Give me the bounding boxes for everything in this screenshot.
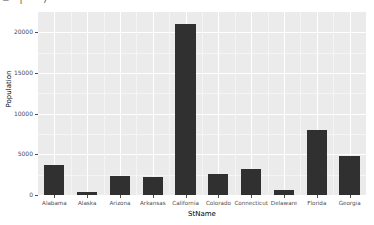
x-axis-title: StName <box>38 210 366 218</box>
y-axis-title: Population <box>5 59 13 119</box>
bar-california[interactable] <box>175 24 195 195</box>
x-tick-label-california: California <box>172 200 199 207</box>
gridline-minor-vertical <box>136 12 137 195</box>
x-tick-mark <box>218 195 219 198</box>
gridline-minor-vertical <box>202 12 203 195</box>
gridline-minor-vertical <box>71 12 72 195</box>
x-tick-label-alabama: Alabama <box>42 200 67 207</box>
x-tick-mark <box>153 195 154 198</box>
bar-alabama[interactable] <box>44 165 64 195</box>
y-tick-label: 20000 <box>0 29 33 35</box>
x-tick-mark <box>87 195 88 198</box>
x-tick-mark <box>251 195 252 198</box>
x-tick-mark <box>317 195 318 198</box>
gridline-minor-vertical <box>104 12 105 195</box>
gridline-major-vertical <box>218 12 219 195</box>
y-tick-mark <box>35 195 38 196</box>
gridline-major-vertical <box>251 12 252 195</box>
x-tick-label-delaware: Delaware <box>271 200 297 207</box>
bar-colorado[interactable] <box>208 174 228 195</box>
bar-connecticut[interactable] <box>241 169 261 195</box>
gridline-major-vertical <box>120 12 121 195</box>
x-tick-mark <box>350 195 351 198</box>
x-tick-label-colorado: Colorado <box>206 200 231 207</box>
truncated-text-fragment: =—| · ·· ) <box>2 0 47 4</box>
bar-florida[interactable] <box>307 130 327 195</box>
bar-chart-figure: 05000100001500020000 AlabamaAlaskaArizon… <box>0 7 374 225</box>
gridline-major-vertical <box>87 12 88 195</box>
x-tick-label-alaska: Alaska <box>78 200 96 207</box>
gridline-minor-vertical <box>300 12 301 195</box>
y-tick-label: 5000 <box>0 151 33 157</box>
y-tick-mark <box>35 154 38 155</box>
bar-arizona[interactable] <box>110 176 130 195</box>
bar-arkansas[interactable] <box>143 177 163 195</box>
bar-georgia[interactable] <box>339 156 359 195</box>
x-tick-mark <box>186 195 187 198</box>
y-tick-label: 0 <box>0 192 33 198</box>
y-tick-mark <box>35 114 38 115</box>
gridline-minor-vertical <box>169 12 170 195</box>
x-tick-mark <box>54 195 55 198</box>
gridline-major-vertical <box>153 12 154 195</box>
gridline-minor-vertical <box>333 12 334 195</box>
x-tick-label-arkansas: Arkansas <box>140 200 166 207</box>
y-tick-mark <box>35 32 38 33</box>
y-tick-mark <box>35 73 38 74</box>
x-tick-label-florida: Florida <box>307 200 326 207</box>
plot-panel <box>38 12 366 195</box>
x-tick-mark <box>284 195 285 198</box>
x-tick-label-connecticut: Connecticut <box>234 200 268 207</box>
gridline-minor-vertical <box>268 12 269 195</box>
x-tick-label-georgia: Georgia <box>339 200 361 207</box>
gridline-minor-vertical <box>235 12 236 195</box>
gridline-major-vertical <box>284 12 285 195</box>
x-tick-mark <box>120 195 121 198</box>
x-tick-label-arizona: Arizona <box>109 200 130 207</box>
